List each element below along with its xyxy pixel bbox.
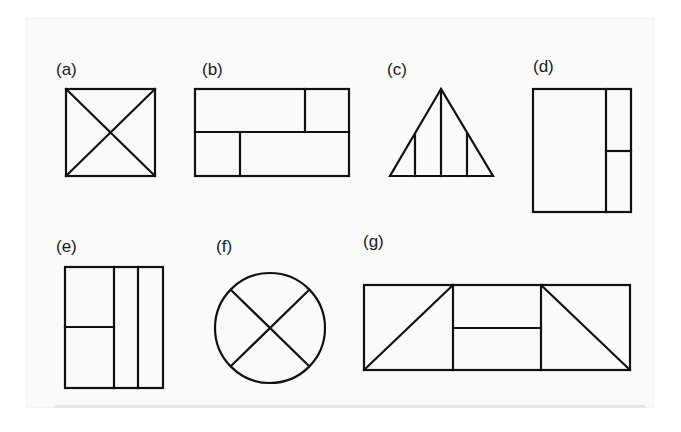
figure-e bbox=[65, 267, 163, 388]
figure-g bbox=[364, 285, 630, 370]
figure-d bbox=[533, 89, 631, 212]
figure-a bbox=[66, 89, 155, 176]
figure-f bbox=[215, 273, 325, 383]
scan-artifact-line bbox=[55, 405, 645, 408]
figure-b bbox=[195, 89, 349, 176]
figure-c bbox=[390, 89, 493, 176]
figures-canvas bbox=[0, 0, 681, 432]
